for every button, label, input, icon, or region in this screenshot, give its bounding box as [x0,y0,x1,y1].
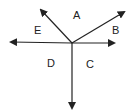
label-c: C [86,58,94,70]
label-d: D [47,57,55,69]
ray-left [11,42,72,43]
label-b: B [112,24,119,36]
angle-diagram: A B C D E [0,0,129,112]
label-a: A [73,9,81,21]
label-e: E [34,24,41,36]
ray-upper-left [41,10,72,43]
